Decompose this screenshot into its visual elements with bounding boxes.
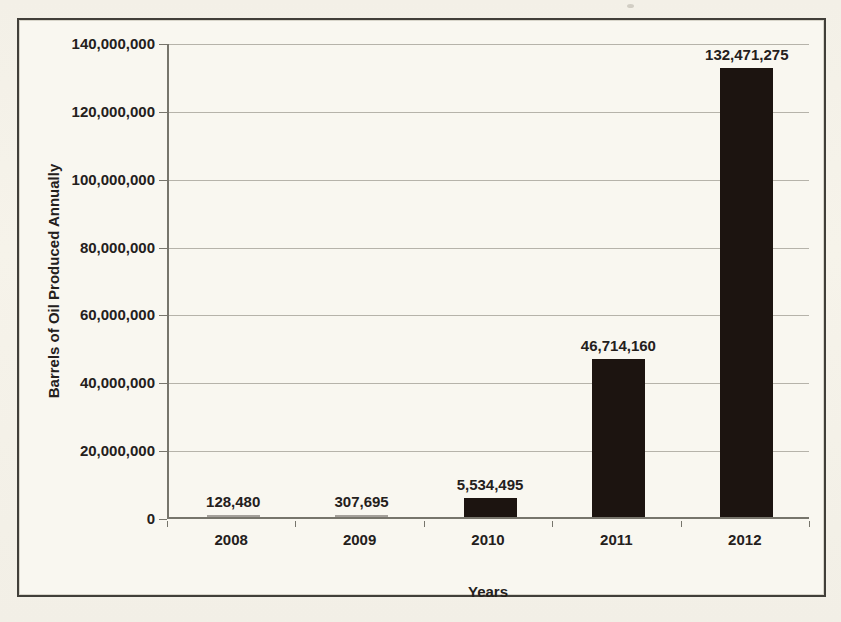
gridline — [169, 451, 809, 452]
x-tick-mark — [681, 521, 682, 527]
x-axis-title: Years — [167, 583, 809, 600]
y-tick-label: 0 — [30, 510, 155, 528]
plot-area: 128,480307,6955,534,49546,714,160132,471… — [167, 44, 809, 519]
y-tick-mark — [159, 112, 167, 113]
bar-2010 — [464, 498, 517, 517]
x-cat-label-2009: 2009 — [343, 531, 376, 549]
gridline — [169, 315, 809, 316]
gridline — [169, 180, 809, 181]
scan-speck — [627, 4, 634, 8]
gridline — [169, 383, 809, 384]
y-tick-label: 80,000,000 — [30, 239, 155, 257]
y-tick-mark — [159, 44, 167, 45]
bar-2012 — [720, 68, 773, 517]
y-tick-label: 100,000,000 — [30, 171, 155, 189]
y-tick-mark — [159, 180, 167, 181]
y-axis-title: Barrels of Oil Produced Annually — [45, 164, 62, 399]
y-tick-mark — [159, 248, 167, 249]
x-tick-mark — [295, 521, 296, 527]
data-label-2009: 307,695 — [334, 493, 388, 511]
data-label-2008: 128,480 — [206, 493, 260, 511]
data-label-2012: 132,471,275 — [705, 46, 788, 64]
scanned-page: Barrels of Oil Produced Annually 128,480… — [0, 0, 841, 622]
x-cat-label-2011: 2011 — [600, 531, 633, 549]
gridline — [169, 44, 809, 45]
data-label-2010: 5,534,495 — [457, 476, 524, 494]
y-tick-label: 120,000,000 — [30, 103, 155, 121]
x-tick-mark — [424, 521, 425, 527]
y-tick-mark — [159, 519, 167, 520]
y-tick-label: 60,000,000 — [30, 306, 155, 324]
x-cat-label-2012: 2012 — [728, 531, 761, 549]
bar-2008 — [207, 515, 260, 517]
y-tick-label: 40,000,000 — [30, 374, 155, 392]
data-label-2011: 46,714,160 — [581, 337, 656, 355]
gridline — [169, 112, 809, 113]
bar-2011 — [592, 359, 645, 517]
gridline — [169, 248, 809, 249]
x-tick-mark — [552, 521, 553, 527]
y-tick-label: 20,000,000 — [30, 442, 155, 460]
x-tick-mark — [167, 521, 168, 527]
y-tick-mark — [159, 383, 167, 384]
x-cat-label-2010: 2010 — [471, 531, 504, 549]
x-cat-label-2008: 2008 — [215, 531, 248, 549]
chart-frame: Barrels of Oil Produced Annually 128,480… — [17, 18, 826, 597]
x-tick-mark — [809, 521, 810, 527]
y-tick-label: 140,000,000 — [30, 35, 155, 53]
bar-2009 — [335, 515, 388, 517]
y-tick-mark — [159, 451, 167, 452]
y-tick-mark — [159, 315, 167, 316]
